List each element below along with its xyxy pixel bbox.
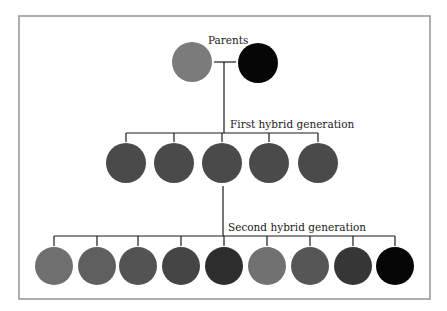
first-generation-circle-1 xyxy=(106,143,146,183)
first-generation-label: First hybrid generation xyxy=(230,118,355,130)
second-generation-circle-7 xyxy=(291,247,329,285)
second-generation-circle-5 xyxy=(205,247,243,285)
second-generation-circle-1 xyxy=(35,247,73,285)
second-generation-circle-9 xyxy=(376,247,414,285)
inheritance-diagram: Parents First hybrid generation Second h… xyxy=(0,0,447,311)
second-generation-circle-3 xyxy=(119,247,157,285)
parent-light-circle xyxy=(172,42,212,82)
parents-label: Parents xyxy=(208,34,248,46)
first-generation-circle-4 xyxy=(249,143,289,183)
parent-dark-circle xyxy=(238,43,278,83)
first-generation-circle-2 xyxy=(154,143,194,183)
first-generation-circle-5 xyxy=(298,143,338,183)
second-generation-circle-2 xyxy=(78,247,116,285)
second-generation-label: Second hybrid generation xyxy=(228,221,366,233)
second-generation-group xyxy=(35,236,414,285)
first-generation-circle-3 xyxy=(202,143,242,183)
second-generation-circle-8 xyxy=(334,247,372,285)
second-generation-circle-4 xyxy=(162,247,200,285)
second-generation-circle-6 xyxy=(248,247,286,285)
